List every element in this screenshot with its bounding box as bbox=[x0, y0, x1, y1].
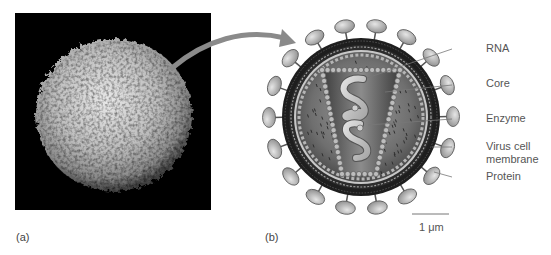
protein-spike bbox=[446, 107, 459, 127]
protein-spike bbox=[420, 46, 443, 70]
panel-label-b: (b) bbox=[265, 231, 278, 243]
protein-spike bbox=[334, 18, 356, 34]
callout-membrane-label-line2: membrane bbox=[486, 153, 539, 166]
scale-bar-label: 1 μm bbox=[419, 221, 444, 233]
callout-membrane-label-line1: Virus cell bbox=[486, 140, 539, 153]
callout-virus-cell-membrane: Virus cell membrane bbox=[486, 140, 539, 166]
protein-spike bbox=[420, 164, 443, 188]
callout-protein: Protein bbox=[486, 170, 521, 183]
protein-spike bbox=[279, 46, 302, 70]
panel-label-a: (a) bbox=[16, 231, 29, 243]
protein-spike bbox=[366, 18, 388, 34]
protein-spike bbox=[279, 165, 302, 189]
callout-core: Core bbox=[486, 77, 510, 90]
protein-spike bbox=[395, 186, 419, 207]
protein-spike bbox=[395, 27, 419, 48]
protein-spike bbox=[262, 107, 275, 127]
protein-spike bbox=[303, 27, 327, 48]
enzyme-dot bbox=[352, 105, 358, 111]
protein-spike bbox=[265, 137, 284, 160]
protein-spike bbox=[303, 186, 327, 207]
protein-spike bbox=[265, 74, 284, 97]
callout-rna-label: RNA bbox=[486, 42, 509, 54]
protein-spike bbox=[334, 200, 356, 216]
callout-rna: RNA bbox=[486, 42, 509, 55]
callout-enzyme: Enzyme bbox=[486, 112, 526, 125]
enzyme-dot bbox=[357, 125, 363, 131]
protein-spike bbox=[366, 199, 388, 215]
callout-protein-label: Protein bbox=[486, 170, 521, 182]
protein-spike bbox=[438, 136, 457, 159]
pointer-arrow bbox=[172, 29, 296, 68]
virus-diagram bbox=[0, 0, 551, 255]
callout-enzyme-label: Enzyme bbox=[486, 112, 526, 124]
callout-core-label: Core bbox=[486, 77, 510, 89]
